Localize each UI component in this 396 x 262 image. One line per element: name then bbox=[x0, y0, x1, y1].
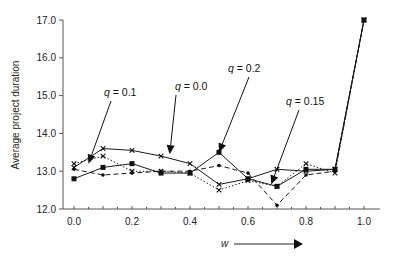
data-point-dot bbox=[217, 164, 221, 168]
y-tick-label: 17.0 bbox=[37, 15, 57, 26]
data-point-x bbox=[72, 161, 77, 166]
y-tick-label: 16.0 bbox=[37, 52, 57, 63]
x-tick-label: 0.8 bbox=[299, 216, 313, 227]
y-tick-label: 14.0 bbox=[37, 128, 57, 139]
annotation-arrow-head-icon bbox=[88, 154, 96, 164]
x-axis-title: w bbox=[221, 238, 229, 249]
data-point-square bbox=[362, 18, 367, 23]
data-point-square bbox=[246, 176, 251, 181]
data-point-dot bbox=[275, 203, 279, 207]
y-ticks: 12.013.014.015.016.017.0 bbox=[37, 15, 63, 215]
annotation-arrow-head-icon bbox=[271, 175, 278, 185]
annotation-label: q = 0.2 bbox=[228, 62, 261, 74]
data-point-square bbox=[72, 176, 77, 181]
data-point-dot bbox=[246, 171, 250, 175]
annotation-arrow-line bbox=[171, 95, 176, 145]
data-point-square bbox=[101, 165, 106, 170]
y-axis-title: Average project duration bbox=[10, 61, 21, 170]
data-point-dot bbox=[72, 168, 76, 172]
annotation-value: = 0.0 bbox=[181, 80, 208, 92]
data-point-square bbox=[333, 167, 338, 172]
arrow-head-icon bbox=[294, 239, 303, 249]
series-line bbox=[74, 20, 364, 205]
annotation-arrow-head-icon bbox=[167, 145, 175, 154]
x-tick-label: 0.4 bbox=[183, 216, 197, 227]
data-point-dot bbox=[101, 173, 105, 177]
data-point-dot bbox=[304, 173, 308, 177]
annotation-01: q = 0.1 bbox=[88, 86, 137, 164]
x-tick-label: 0.6 bbox=[241, 216, 255, 227]
annotation-label: q = 0.15 bbox=[286, 95, 324, 107]
y-tick-label: 13.0 bbox=[37, 166, 57, 177]
annotation-value: = 0.15 bbox=[292, 95, 325, 107]
line-chart: 12.013.014.015.016.017.0 0.00.20.40.60.8… bbox=[0, 0, 396, 262]
y-tick-label: 15.0 bbox=[37, 90, 57, 101]
axes: 12.013.014.015.016.017.0 0.00.20.40.60.8… bbox=[37, 15, 380, 228]
annotation-value: = 0.2 bbox=[234, 62, 261, 74]
series-layer bbox=[72, 18, 367, 208]
x-tick-label: 0.0 bbox=[67, 216, 81, 227]
data-point-square bbox=[275, 184, 280, 189]
y-tick-label: 12.0 bbox=[37, 204, 57, 215]
data-point-square bbox=[130, 161, 135, 166]
series-q-0-15 bbox=[72, 18, 366, 207]
x-tick-label: 1.0 bbox=[357, 216, 371, 227]
annotation-00: q = 0.0 bbox=[167, 80, 208, 154]
x-direction-arrow: w bbox=[221, 238, 303, 249]
annotations: q = 0.1q = 0.0q = 0.2q = 0.15 bbox=[88, 62, 325, 184]
data-point-x bbox=[217, 188, 222, 193]
data-point-dot bbox=[130, 171, 134, 175]
annotation-label: q = 0.0 bbox=[175, 80, 208, 92]
annotation-label: q = 0.1 bbox=[104, 86, 137, 98]
annotation-02: q = 0.2 bbox=[219, 62, 261, 152]
x-tick-label: 0.2 bbox=[125, 216, 139, 227]
data-point-square bbox=[188, 171, 193, 176]
annotation-arrow-line bbox=[274, 110, 299, 176]
data-point-square bbox=[159, 171, 164, 176]
annotation-arrow-line bbox=[222, 77, 249, 144]
data-point-square bbox=[304, 167, 309, 172]
annotation-value: = 0.1 bbox=[110, 86, 137, 98]
